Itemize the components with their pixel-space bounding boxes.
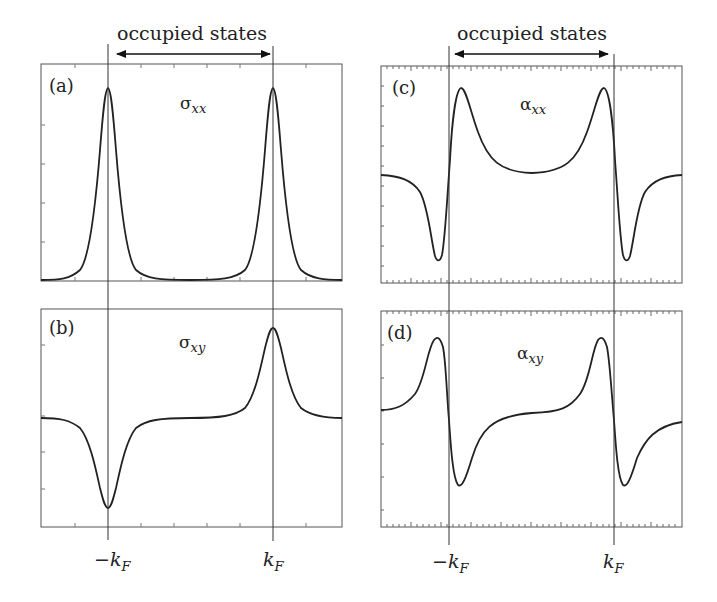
curve-sigma-xy	[41, 328, 342, 508]
tick-label-plus-kF-left: kF	[263, 548, 285, 574]
tick-label-minus-kF-right: −kF	[432, 550, 469, 576]
series-label-sigma-xx: σxx	[180, 93, 207, 116]
panel-c: (c) αxx	[381, 66, 682, 283]
occupied-states-label-left: occupied states	[117, 22, 267, 44]
occupied-states-label-right: occupied states	[457, 22, 607, 44]
panel-label-a: (a)	[49, 75, 74, 96]
curve-sigma-xx	[41, 88, 342, 280]
series-label-alpha-xy: αxy	[517, 343, 544, 366]
tick-label-plus-kF-right: kF	[603, 550, 625, 576]
tick-label-minus-kF-left: −kF	[94, 548, 131, 574]
series-label-alpha-xx: αxx	[520, 94, 547, 117]
panel-label-d: (d)	[387, 322, 413, 343]
series-label-sigma-xy: σxy	[179, 332, 206, 355]
panel-label-c: (c)	[392, 77, 416, 98]
panel-label-b: (b)	[49, 317, 75, 338]
panel-a: (a) σxx	[41, 64, 342, 281]
figure: occupied states (a) σxx (b) σxy	[0, 0, 717, 602]
panel-d: (d) αxy	[381, 311, 682, 527]
panel-b: (b) σxy	[41, 309, 342, 527]
